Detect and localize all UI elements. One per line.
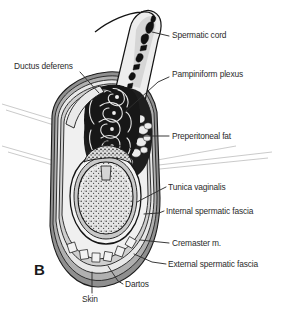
label-cremaster-m: Cremaster m. — [172, 238, 221, 248]
label-skin: Skin — [82, 294, 98, 304]
label-pampiniform-plexus: Pampiniform plexus — [172, 69, 243, 79]
panel-letter-b: B — [34, 261, 45, 278]
label-dartos: Dartos — [125, 279, 149, 289]
mediastinum-testis — [101, 166, 111, 180]
label-preperitoneal-fat: Preperitoneal fat — [172, 131, 231, 141]
label-spermatic-cord: Spermatic cord — [172, 30, 226, 40]
label-external-spermatic-fascia: External spermatic fascia — [168, 259, 258, 269]
label-internal-spermatic-fascia: Internal spermatic fascia — [166, 206, 253, 216]
anatomical-figure-panel-b: Spermatic cord Ductus deferens Pampinifo… — [0, 0, 282, 314]
label-ductus-deferens: Ductus deferens — [14, 61, 73, 71]
label-tunica-vaginalis: Tunica vaginalis — [168, 182, 225, 192]
